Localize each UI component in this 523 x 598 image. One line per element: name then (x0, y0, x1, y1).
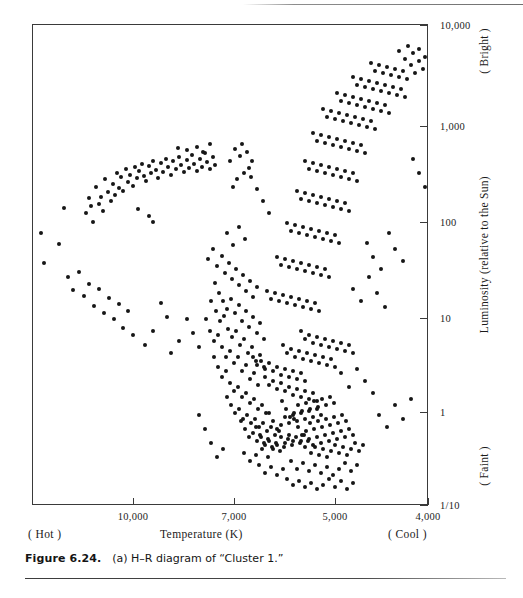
data-point (283, 389, 287, 393)
data-point (249, 175, 253, 179)
data-point (359, 143, 363, 147)
data-point (287, 421, 291, 425)
data-point (220, 345, 224, 349)
data-point (343, 435, 347, 439)
data-point (307, 167, 311, 171)
data-point (300, 409, 304, 413)
caption-bottom-rule (25, 578, 506, 579)
data-point (297, 297, 301, 301)
data-point (335, 137, 339, 141)
data-point (371, 107, 375, 111)
data-point (185, 148, 189, 152)
data-point (351, 171, 355, 175)
data-point (220, 375, 224, 379)
data-point (311, 341, 315, 345)
data-point (195, 169, 199, 173)
data-point (321, 237, 325, 241)
data-point (359, 77, 363, 81)
data-point (289, 459, 293, 463)
data-point (319, 163, 323, 167)
data-point (247, 435, 251, 439)
data-point (271, 379, 275, 383)
data-point (325, 115, 329, 119)
data-point (128, 173, 132, 177)
data-point (269, 465, 273, 469)
data-point (66, 275, 70, 279)
data-point (399, 87, 403, 91)
data-point (291, 483, 295, 487)
data-point (143, 343, 147, 347)
data-point (303, 337, 307, 341)
data-point (423, 185, 427, 189)
data-point (244, 289, 248, 293)
data-point (345, 453, 349, 457)
data-point (333, 443, 337, 447)
data-point (277, 299, 281, 303)
data-point (238, 154, 242, 158)
data-point (233, 411, 237, 415)
data-point (151, 159, 155, 163)
data-point (337, 111, 341, 115)
data-point (343, 139, 347, 143)
data-point (213, 163, 217, 167)
data-point (271, 369, 275, 373)
data-point (385, 425, 389, 429)
data-point (393, 67, 397, 71)
data-point (289, 295, 293, 299)
data-point (351, 95, 355, 99)
data-point (313, 235, 317, 239)
y-axis-tick-label: 1,000 (440, 121, 465, 132)
data-point (333, 485, 337, 489)
data-point (260, 403, 264, 407)
data-point (131, 333, 135, 337)
y-axis-tick-label: 10,000 (440, 20, 471, 31)
data-point (359, 97, 363, 101)
data-point (349, 447, 353, 451)
data-point (319, 133, 323, 137)
data-point (57, 242, 61, 246)
data-point (308, 421, 312, 425)
data-point (169, 351, 173, 355)
data-point (397, 75, 401, 79)
data-point (309, 481, 313, 485)
data-point (255, 285, 259, 289)
data-point (137, 169, 141, 173)
data-point (313, 301, 317, 305)
data-point (274, 441, 278, 445)
data-point (237, 407, 241, 411)
data-point (375, 101, 379, 105)
data-point (311, 131, 315, 135)
data-point (403, 95, 407, 99)
data-point (283, 257, 287, 261)
data-point (42, 261, 46, 265)
data-point (347, 343, 351, 347)
data-point (251, 431, 255, 435)
data-point (149, 171, 153, 175)
data-point (279, 373, 283, 377)
data-point (233, 147, 237, 151)
data-point (214, 309, 218, 313)
data-point (176, 146, 180, 150)
data-point (212, 355, 216, 359)
data-point (371, 87, 375, 91)
data-point (281, 293, 285, 297)
data-point (373, 127, 377, 131)
data-point (165, 315, 169, 319)
data-point (339, 145, 343, 149)
data-point (255, 439, 259, 443)
data-point (71, 288, 75, 292)
data-point (397, 49, 401, 53)
data-point (329, 239, 333, 243)
data-point (161, 170, 165, 174)
y-axis-tick (420, 222, 428, 223)
data-point (242, 171, 246, 175)
x-axis-tick (133, 498, 134, 505)
data-point (325, 455, 329, 459)
data-point (284, 407, 288, 411)
data-point (383, 83, 387, 87)
data-point (256, 383, 260, 387)
data-point (369, 61, 373, 65)
data-point (389, 73, 393, 77)
data-point (315, 399, 319, 403)
data-point (240, 319, 244, 323)
